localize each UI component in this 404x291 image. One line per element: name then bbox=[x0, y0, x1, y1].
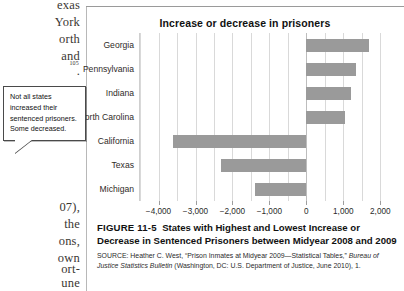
figure-chart: Increase or decrease in prisoners −4,000… bbox=[86, 7, 404, 219]
x-tick bbox=[232, 201, 233, 205]
category-label-indiana: Indiana bbox=[106, 88, 134, 98]
x-tick bbox=[380, 201, 381, 205]
x-tick-label: 2,000 bbox=[370, 207, 391, 216]
x-tick-label: 0 bbox=[304, 207, 309, 216]
gridline bbox=[362, 33, 363, 201]
source-text-1: Heather C. West, “Prison Inmates at Midy… bbox=[130, 252, 348, 259]
gridline bbox=[214, 33, 215, 201]
category-label-north-carolina: North Carolina bbox=[79, 112, 134, 122]
bar-north-carolina bbox=[306, 111, 345, 124]
x-tick bbox=[269, 201, 270, 205]
margin-line-5: 07), bbox=[59, 200, 80, 215]
x-tick bbox=[343, 201, 344, 205]
x-tick-label: −3,000 bbox=[183, 207, 208, 216]
plot-area: −4,000−3,000−2,000−1,00001,0002,000Georg… bbox=[140, 33, 384, 201]
callout-text: Not all states increased their sentenced… bbox=[10, 92, 77, 133]
gridline bbox=[288, 33, 289, 201]
gridline bbox=[251, 33, 252, 201]
figure-source: SOURCE: Heather C. West, “Prison Inmates… bbox=[97, 251, 399, 271]
gridline bbox=[177, 33, 178, 201]
x-tick bbox=[306, 201, 307, 205]
margin-line-1: York bbox=[55, 15, 80, 30]
bar-indiana bbox=[306, 87, 350, 100]
x-tick bbox=[196, 201, 197, 205]
category-label-michigan: Michigan bbox=[100, 184, 134, 194]
bar-pennsylvania bbox=[306, 63, 356, 76]
gridline bbox=[232, 33, 233, 201]
margin-line-4: . bbox=[77, 64, 80, 79]
x-tick-label: 1,000 bbox=[333, 207, 354, 216]
gridline bbox=[269, 33, 270, 201]
margin-line-7: ons, bbox=[59, 234, 80, 249]
bar-georgia bbox=[306, 39, 369, 52]
margin-line-0: exas bbox=[57, 0, 80, 13]
caption-heading: FIGURE 11-5 States with Highest and Lowe… bbox=[97, 222, 399, 247]
left-column-text: exas York orth and 105 . 07), the ons, o… bbox=[0, 0, 86, 291]
category-label-texas: Texas bbox=[112, 160, 134, 170]
margin-line-10: une bbox=[61, 276, 80, 291]
bar-michigan bbox=[255, 183, 307, 196]
x-tick bbox=[159, 201, 160, 205]
source-text-2: (Washington, DC: U.S. Department of Just… bbox=[172, 262, 360, 269]
callout-tail bbox=[15, 136, 37, 153]
callout-balloon: Not all states increased their sentenced… bbox=[3, 86, 86, 141]
category-label-california: California bbox=[98, 136, 134, 146]
gridline bbox=[140, 33, 141, 201]
category-label-pennsylvania: Pennsylvania bbox=[83, 64, 134, 74]
x-tick-label: −4,000 bbox=[146, 207, 171, 216]
margin-line-6: the bbox=[64, 217, 80, 232]
category-label-georgia: Georgia bbox=[103, 40, 134, 50]
bar-texas bbox=[221, 159, 306, 172]
x-tick-label: −1,000 bbox=[257, 207, 282, 216]
chart-title: Increase or decrease in prisoners bbox=[86, 17, 404, 29]
margin-line-9: ort- bbox=[61, 262, 80, 277]
source-prefix: SOURCE: bbox=[97, 252, 128, 259]
gridline bbox=[159, 33, 160, 201]
figure-caption: FIGURE 11-5 States with Highest and Lowe… bbox=[97, 222, 399, 271]
x-tick-label: −2,000 bbox=[220, 207, 245, 216]
figure-number: FIGURE 11-5 bbox=[97, 222, 157, 233]
gridline bbox=[196, 33, 197, 201]
gridline bbox=[380, 33, 381, 201]
margin-line-2: orth bbox=[59, 32, 80, 47]
bar-california bbox=[173, 135, 306, 148]
